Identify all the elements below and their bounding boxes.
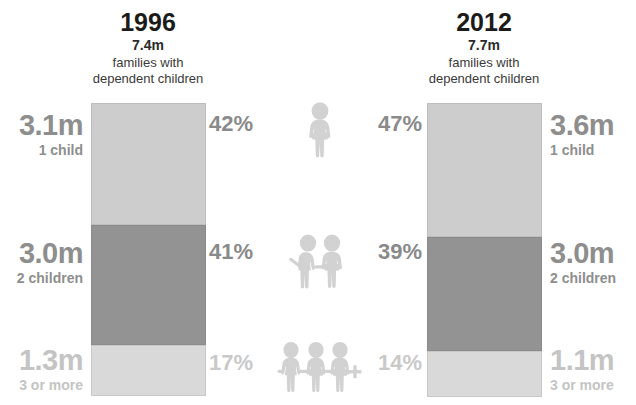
three-or-more-children-icon [276, 340, 362, 396]
one-child-icon [290, 100, 350, 160]
infographic-canvas: 1996 7.4m families with dependent childr… [0, 0, 636, 405]
value-1996-three-or-more: 1.3m [0, 345, 83, 376]
panel-total-1996: 7.4m [28, 37, 268, 54]
two-children-icon [283, 232, 355, 292]
panel-header-2012: 2012 7.7m families with dependent childr… [364, 9, 604, 86]
bar-segment-2012-three-or-more[interactable] [427, 351, 542, 397]
percent-2012-three-or-more: 14% [378, 351, 422, 375]
percent-1996-one-child: 42% [209, 112, 253, 136]
percent-2012-two-children: 39% [378, 240, 422, 264]
panel-subtitle-line1-2012: families with [364, 55, 604, 70]
panel-header-1996: 1996 7.4m families with dependent childr… [28, 9, 268, 86]
percent-2012-one-child: 47% [378, 112, 422, 136]
percent-1996-three-or-more: 17% [209, 351, 253, 375]
panel-year-2012: 2012 [364, 9, 604, 36]
value-2012-three-or-more: 1.1m [550, 345, 636, 376]
category-2012-three-or-more: 3 or more [550, 377, 636, 394]
panel-year-1996: 1996 [28, 9, 268, 36]
stacked-bar-2012 [427, 103, 542, 397]
panel-subtitle-line2-2012: dependent children [364, 71, 604, 86]
value-2012-two-children: 3.0m [550, 238, 636, 269]
category-2012-one-child: 1 child [550, 142, 636, 159]
value-1996-two-children: 3.0m [0, 238, 83, 269]
percent-1996-two-children: 41% [209, 240, 253, 264]
category-2012-two-children: 2 children [550, 270, 636, 287]
bar-segment-2012-two-children[interactable] [427, 237, 542, 351]
value-1996-one-child: 3.1m [0, 110, 83, 141]
bar-segment-2012-one-child[interactable] [427, 103, 542, 237]
value-2012-one-child: 3.6m [550, 110, 636, 141]
category-1996-one-child: 1 child [0, 142, 83, 159]
panel-subtitle-line2-1996: dependent children [28, 71, 268, 86]
bar-segment-1996-two-children[interactable] [91, 225, 206, 345]
category-1996-three-or-more: 3 or more [0, 377, 83, 394]
panel-total-2012: 7.7m [364, 37, 604, 54]
bar-segment-1996-three-or-more[interactable] [91, 345, 206, 396]
bar-segment-1996-one-child[interactable] [91, 103, 206, 225]
panel-subtitle-line1-1996: families with [28, 55, 268, 70]
stacked-bar-1996 [91, 103, 206, 396]
category-1996-two-children: 2 children [0, 270, 83, 287]
